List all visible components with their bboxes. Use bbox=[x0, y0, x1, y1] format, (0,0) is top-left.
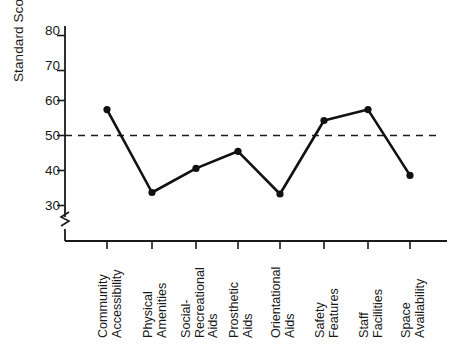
x-tick-label: SpaceAvailability bbox=[400, 279, 427, 338]
y-tick-label-wrap: 50 bbox=[30, 129, 60, 143]
y-tick-label-wrap: 80 bbox=[30, 24, 60, 38]
x-tick-label-line: Orientational bbox=[270, 267, 284, 338]
x-tick-label-line: Prosthetic bbox=[228, 282, 242, 338]
x-tick-label-line: Aids bbox=[242, 282, 256, 338]
data-point[interactable] bbox=[103, 106, 110, 113]
x-tick-label-line: Staff bbox=[358, 289, 372, 338]
data-point[interactable] bbox=[406, 172, 413, 179]
chart-container: Standard Score bbox=[0, 0, 454, 346]
y-axis-break-icon bbox=[61, 212, 69, 226]
y-tick-label-wrap: 30 bbox=[30, 199, 60, 213]
data-point[interactable] bbox=[364, 106, 371, 113]
data-point[interactable] bbox=[276, 190, 283, 197]
x-tick-label-line: Recreational bbox=[193, 267, 207, 338]
x-tick-label: SafetyFeatures bbox=[314, 288, 341, 338]
x-tick-label-line: Facilities bbox=[372, 289, 386, 338]
data-point[interactable] bbox=[192, 165, 199, 172]
x-tick-label-line: Community bbox=[97, 269, 111, 338]
x-tick-label: ProstheticAids bbox=[228, 282, 255, 338]
data-point[interactable] bbox=[234, 148, 241, 155]
y-tick-label: 60 bbox=[34, 94, 60, 108]
x-tick-label-line: Availability bbox=[414, 279, 428, 338]
y-tick-label-wrap: 60 bbox=[30, 94, 60, 108]
x-tick-label-line: Accessibility bbox=[111, 269, 125, 338]
y-tick-label: 30 bbox=[34, 199, 60, 213]
x-tick-label: OrientationalAids bbox=[270, 267, 297, 338]
series-markers bbox=[103, 106, 413, 198]
x-tick-label-line: Aids bbox=[207, 267, 221, 338]
data-point[interactable] bbox=[320, 117, 327, 124]
series-line bbox=[107, 110, 410, 194]
y-tick-label: 40 bbox=[34, 164, 60, 178]
x-tick-label: StaffFacilities bbox=[358, 289, 385, 338]
x-tick-label: CommunityAccessibility bbox=[97, 269, 124, 338]
x-tick-marks bbox=[107, 241, 410, 249]
x-tick-label: Social-RecreationalAids bbox=[180, 267, 221, 338]
y-tick-label-wrap: 40 bbox=[30, 164, 60, 178]
x-tick-label-line: Aids bbox=[284, 267, 298, 338]
y-tick-label-wrap: 70 bbox=[30, 59, 60, 73]
y-tick-label: 50 bbox=[34, 129, 60, 143]
y-tick-label: 70 bbox=[34, 59, 60, 73]
x-tick-label-line: Space bbox=[400, 279, 414, 338]
x-tick-label-line: Social- bbox=[180, 267, 194, 338]
x-tick-label-line: Physical bbox=[142, 283, 156, 338]
x-tick-label: PhysicalAmenities bbox=[142, 283, 169, 338]
x-tick-label-line: Features bbox=[328, 288, 342, 338]
x-tick-label-line: Safety bbox=[314, 288, 328, 338]
data-point[interactable] bbox=[148, 189, 155, 196]
x-tick-label-line: Amenities bbox=[156, 283, 170, 338]
y-tick-label: 80 bbox=[34, 24, 60, 38]
